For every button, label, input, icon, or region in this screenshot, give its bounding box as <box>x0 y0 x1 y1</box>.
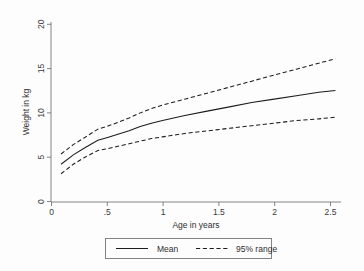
y-tick-label-15: 15 <box>36 64 46 74</box>
y-tick-label-0: 0 <box>36 199 46 204</box>
x-tick-label-1: 1 <box>161 207 166 217</box>
x-tick-label-2_5: 2.5 <box>325 207 337 217</box>
x-tick-label-0: 0 <box>49 207 54 217</box>
plot-frame <box>51 22 341 202</box>
y-tick-label-10: 10 <box>36 108 46 118</box>
y-axis-ticks <box>47 24 51 201</box>
y-axis-title: Weight in kg <box>21 88 31 135</box>
series-line-95-range-lower <box>61 117 335 174</box>
y-tick-label-20: 20 <box>36 19 46 29</box>
x-tick-label-0_5: .5 <box>104 207 111 217</box>
axis-lines <box>51 22 341 202</box>
x-tick-label-2: 2 <box>272 207 277 217</box>
legend-label-mean: Mean <box>157 244 179 254</box>
x-axis-ticks <box>52 202 331 206</box>
y-axis-tick-labels: 0 5 10 15 20 <box>36 19 46 204</box>
x-axis-title: Age in years <box>172 220 219 230</box>
series-line-95-range-upper <box>61 59 335 154</box>
chart-figure: 0 5 10 15 20 Weight in kg 0 .5 1 1.5 2 2… <box>0 0 364 271</box>
legend-label-95-range: 95% range <box>236 244 277 254</box>
x-axis-tick-labels: 0 .5 1 1.5 2 2.5 <box>49 207 337 217</box>
chart-legend: Mean 95% range <box>106 239 278 259</box>
growth-chart-plot: 0 5 10 15 20 Weight in kg 0 .5 1 1.5 2 2… <box>0 0 364 271</box>
x-tick-label-1_5: 1.5 <box>213 207 225 217</box>
data-series-group <box>61 59 335 174</box>
y-tick-label-5: 5 <box>36 155 46 160</box>
